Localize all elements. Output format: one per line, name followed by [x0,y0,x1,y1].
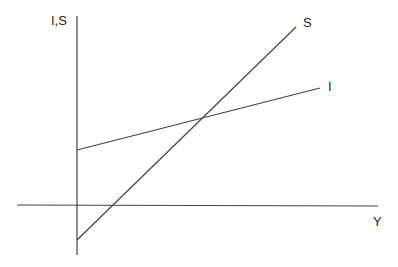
x-axis [17,205,378,206]
investment-curve-label: I [328,79,332,94]
saving-investment-diagram: I,S Y S I [0,0,398,267]
saving-line [77,27,296,240]
y-axis-label: I,S [51,13,67,28]
x-axis-label: Y [373,214,382,229]
saving-curve-label: S [303,15,312,30]
investment-line [77,88,320,150]
